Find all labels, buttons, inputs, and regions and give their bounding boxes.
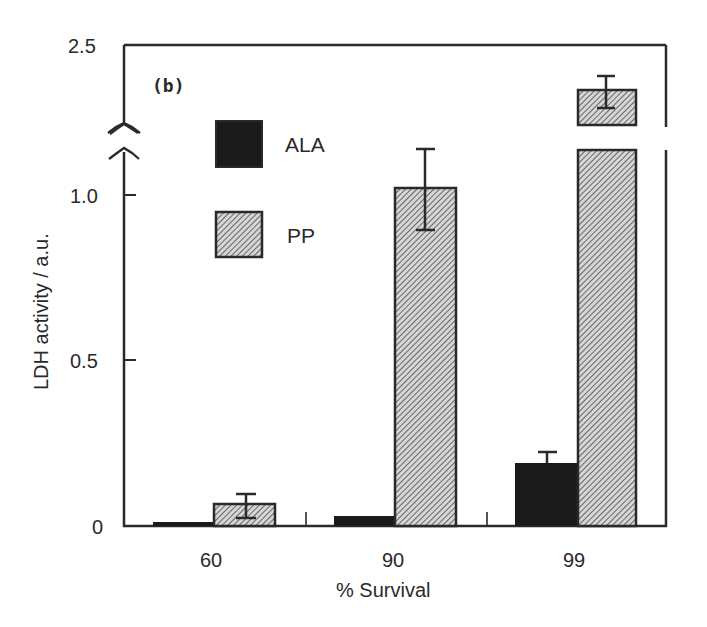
legend-label-pp: PP xyxy=(287,224,315,247)
y-axis-title: LDH activity / a.u. xyxy=(30,233,52,390)
y-tick-label-1.0: 1.0 xyxy=(70,185,98,207)
legend: ALA PP xyxy=(216,121,325,257)
y-ticks xyxy=(124,195,136,360)
bar-group-99 xyxy=(515,76,636,526)
x-axis-title: % Survival xyxy=(336,579,430,601)
y-tick-label-2.5: 2.5 xyxy=(68,35,96,57)
legend-swatch-pp xyxy=(216,212,262,257)
panel-label: (b) xyxy=(152,75,185,96)
y-tick-label-0.5: 0.5 xyxy=(70,350,98,372)
bar-chart: (b) 2.5 1.0 0.5 0 ALA PP xyxy=(0,0,707,627)
bar-ala-60 xyxy=(153,522,213,526)
x-tick-label-60: 60 xyxy=(200,549,222,571)
bar-group-90 xyxy=(334,149,456,526)
bar-pp-90 xyxy=(395,188,456,526)
bar-pp-60 xyxy=(214,504,275,526)
legend-swatch-ala xyxy=(216,121,262,167)
legend-label-ala: ALA xyxy=(285,133,325,156)
bar-pp-99-lower xyxy=(578,150,636,526)
error-bar-ala-99 xyxy=(538,452,557,463)
bar-group-60 xyxy=(153,494,275,526)
bar-ala-90 xyxy=(334,516,395,526)
x-tick-label-90: 90 xyxy=(382,549,404,571)
bar-ala-99 xyxy=(515,463,579,526)
x-tick-label-99: 99 xyxy=(563,549,585,571)
y-tick-label-0: 0 xyxy=(92,516,103,538)
